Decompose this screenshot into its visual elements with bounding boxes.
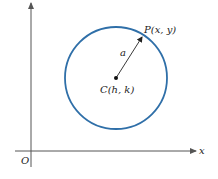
x-axis-label: x (199, 145, 205, 156)
center-label: C(h, k) (100, 84, 134, 95)
radius-label: a (120, 47, 126, 58)
origin-label: O (21, 155, 29, 166)
center-point (114, 76, 118, 80)
point-label: P(x, y) (143, 24, 176, 35)
circle-diagram: P(x, y) a C(h, k) O x (0, 0, 218, 179)
